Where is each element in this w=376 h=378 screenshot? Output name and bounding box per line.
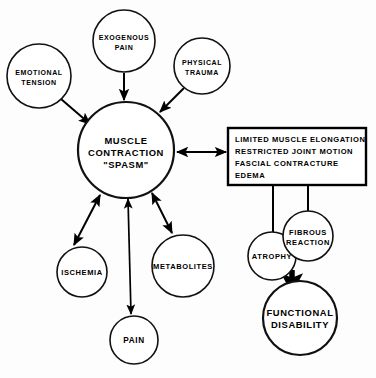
consequences-box-line-4: EDEMA xyxy=(235,171,265,180)
functional-disability-label-line1: FUNCTIONAL xyxy=(267,307,334,318)
node-fibrous-reaction[interactable]: FIBROUS REACTION xyxy=(283,211,333,261)
exogenous-pain-circle xyxy=(93,10,155,72)
node-physical-trauma[interactable]: PHYSICAL TRAUMA xyxy=(174,38,230,94)
edge-physical-trauma-to-spasm xyxy=(160,88,184,112)
metabolites-label: METABOLITES xyxy=(153,262,213,271)
fibrous-reaction-label-line2: REACTION xyxy=(286,238,330,247)
emotional-tension-circle xyxy=(7,44,71,108)
functional-disability-circle xyxy=(263,281,337,355)
edge-spasm-to-metabolites xyxy=(152,193,172,233)
emotional-tension-label-line1: EMOTIONAL xyxy=(15,69,63,76)
consequences-box-line-2: RESTRICTED JOINT MOTION xyxy=(235,147,353,156)
node-muscle-contraction-spasm[interactable]: MUSCLE CONTRACTION "SPASM" xyxy=(78,102,174,198)
figure-caption xyxy=(0,366,376,378)
physical-trauma-label-line2: TRAUMA xyxy=(185,69,219,76)
diagram-canvas: EMOTIONAL TENSION EXOGENOUS PAIN PHYSICA… xyxy=(0,0,376,378)
consequences-box-line-1: LIMITED MUSCLE ELONGATION xyxy=(235,135,365,144)
emotional-tension-label-line2: TENSION xyxy=(21,79,56,86)
exogenous-pain-label-line2: PAIN xyxy=(115,44,134,51)
muscle-contraction-spasm-label-line2: CONTRACTION xyxy=(88,147,164,158)
node-consequences-box[interactable]: LIMITED MUSCLE ELONGATION RESTRICTED JOI… xyxy=(228,128,366,185)
edge-spasm-to-pain xyxy=(128,199,131,314)
edge-emotional-tension-to-spasm xyxy=(61,99,90,124)
muscle-contraction-spasm-label-line1: MUSCLE xyxy=(104,135,147,146)
physical-trauma-circle xyxy=(174,38,230,94)
node-functional-disability[interactable]: FUNCTIONAL DISABILITY xyxy=(263,281,337,355)
flow-diagram: EMOTIONAL TENSION EXOGENOUS PAIN PHYSICA… xyxy=(0,0,376,378)
physical-trauma-label-line1: PHYSICAL xyxy=(182,59,222,66)
muscle-contraction-spasm-label-line3: "SPASM" xyxy=(103,159,149,170)
node-emotional-tension[interactable]: EMOTIONAL TENSION xyxy=(7,44,71,108)
functional-disability-label-line2: DISABILITY xyxy=(271,319,329,330)
node-pain[interactable]: PAIN xyxy=(110,316,158,364)
node-exogenous-pain[interactable]: EXOGENOUS PAIN xyxy=(93,10,155,72)
pain-label: PAIN xyxy=(123,336,144,345)
exogenous-pain-label-line1: EXOGENOUS xyxy=(99,34,150,41)
edge-spasm-to-ischemia xyxy=(74,195,100,245)
node-ischemia[interactable]: ISCHEMIA xyxy=(57,247,107,297)
fibrous-reaction-label-line1: FIBROUS xyxy=(289,228,327,237)
atrophy-label: ATROPHY xyxy=(252,252,292,261)
node-metabolites[interactable]: METABOLITES xyxy=(152,235,214,297)
ischemia-label: ISCHEMIA xyxy=(61,268,102,277)
consequences-box-line-3: FASCIAL CONTRACTURE xyxy=(235,159,339,168)
